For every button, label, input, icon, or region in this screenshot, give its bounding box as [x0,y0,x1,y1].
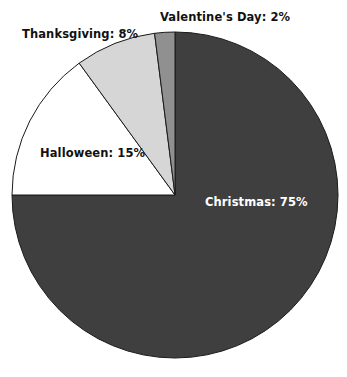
slice-label-christmas: Christmas: 75% [205,197,308,209]
slice-label-thanksgiving: Thanksgiving: 8% [22,29,138,41]
pie-chart-canvas [0,0,347,377]
slice-label-valentines-day: Valentine's Day: 2% [160,12,290,24]
pie-chart: Valentine's Day: 2% Thanksgiving: 8% Hal… [0,0,347,377]
slice-label-halloween: Halloween: 15% [40,148,145,160]
